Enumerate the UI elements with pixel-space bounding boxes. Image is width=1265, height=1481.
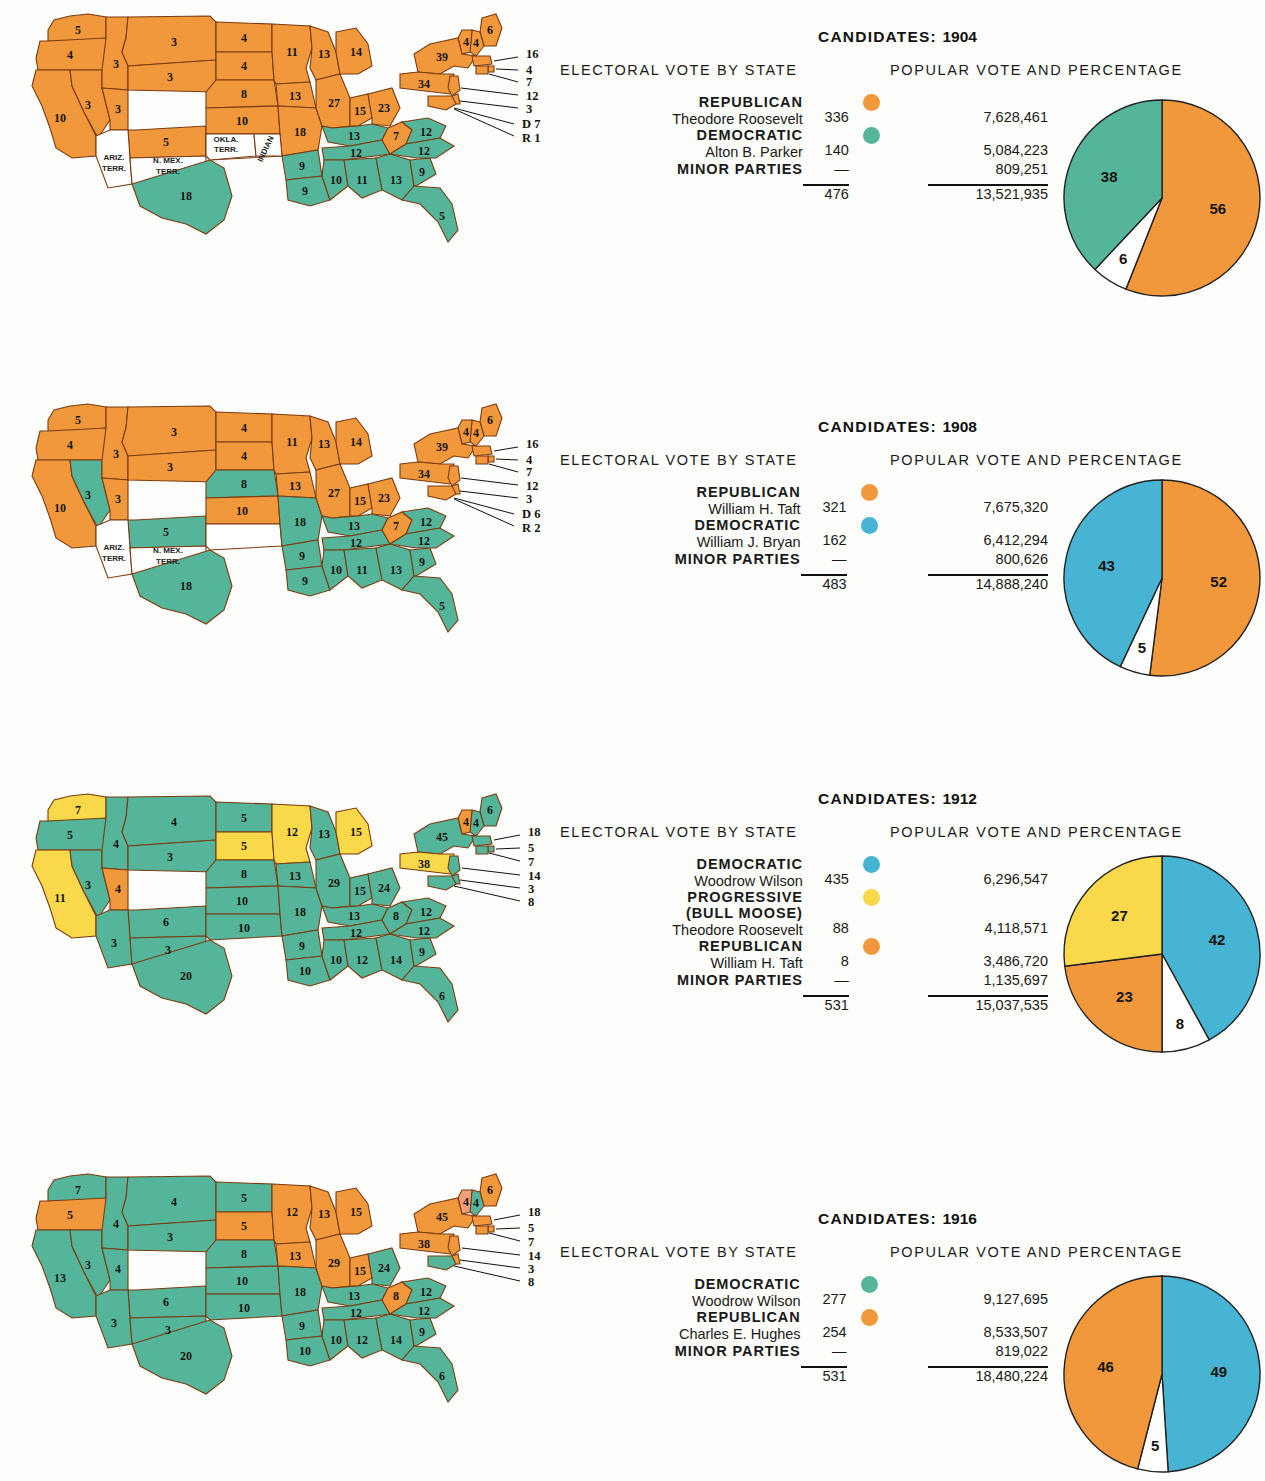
pie-value-democratic: 49 bbox=[1210, 1363, 1227, 1380]
state-votes-nd: 5 bbox=[241, 1191, 247, 1205]
pie-slice-republican bbox=[1150, 480, 1260, 676]
state-votes-wi: 13 bbox=[318, 437, 330, 451]
candidate-popular-votes: 9,127,695 bbox=[928, 1276, 1048, 1309]
state-votes-or: 4 bbox=[67, 438, 73, 452]
state-votes-mo: 18 bbox=[294, 125, 306, 139]
popular-vote-pie-1912: 4282327 bbox=[1052, 844, 1265, 1064]
leader-line-2 bbox=[489, 74, 518, 82]
state-votes-nc: 12 bbox=[418, 144, 430, 158]
pie-container: 56638 bbox=[1052, 88, 1265, 312]
party-label: DEMOCRATIC bbox=[578, 127, 803, 143]
vote-row-party: REPUBLICANWilliam H. Taft83,486,720 bbox=[578, 938, 1048, 971]
state-votes-me: 6 bbox=[487, 413, 493, 427]
total-popular: 15,037,535 bbox=[928, 997, 1048, 1013]
party-color-swatch bbox=[861, 484, 878, 501]
leader-line-1 bbox=[496, 1228, 520, 1229]
leader-line-1 bbox=[496, 459, 518, 460]
state-votes-ga: 13 bbox=[390, 173, 402, 187]
leader-line-5 bbox=[454, 1266, 520, 1281]
map-wrapper-1904: 5410333335448101811131899132714152313121… bbox=[10, 8, 555, 363]
candidate-popular-votes: 3,486,720 bbox=[928, 938, 1048, 971]
state-votes-co: 6 bbox=[163, 1295, 169, 1309]
results-panel-1912: CANDIDATES: 1912ELECTORAL VOTE BY STATEP… bbox=[560, 780, 1235, 1150]
totals-row: 53118,480,224 bbox=[578, 1368, 1048, 1384]
state-votes-ut: 4 bbox=[115, 882, 121, 896]
state-votes-id: 3 bbox=[113, 57, 119, 71]
pie-value-republican: 52 bbox=[1210, 573, 1227, 590]
state-votes-mt: 3 bbox=[171, 425, 177, 439]
state-votes-nc: 12 bbox=[418, 534, 430, 548]
state-fl bbox=[402, 186, 458, 242]
state-votes-wv: 7 bbox=[393, 129, 399, 143]
state-votes-mn: 11 bbox=[286, 45, 297, 59]
state-votes-ks: 10 bbox=[236, 1274, 248, 1288]
state-votes-wy: 3 bbox=[167, 70, 173, 84]
candidate-popular-votes: 6,412,294 bbox=[928, 517, 1048, 550]
leader-line-3 bbox=[461, 478, 518, 485]
state-votes-or: 4 bbox=[67, 48, 73, 62]
state-votes-ne: 8 bbox=[241, 1247, 247, 1261]
state-votes-va: 12 bbox=[420, 515, 432, 529]
state-votes-wi: 13 bbox=[318, 1207, 330, 1221]
state-votes-pa: 34 bbox=[418, 467, 430, 481]
state-ct bbox=[476, 1226, 488, 1234]
electoral-map-1908: 5410333335448101811131899132714152313121… bbox=[10, 398, 555, 648]
candidate-name: Woodrow Wilson bbox=[578, 872, 803, 889]
state-votes-ms: 10 bbox=[330, 173, 342, 187]
leader-line-6 bbox=[454, 499, 514, 526]
minor-parties-electoral: — bbox=[801, 550, 847, 568]
state-votes-nc: 12 bbox=[418, 924, 430, 938]
popular-column-heading: POPULAR VOTE AND PERCENTAGE bbox=[890, 452, 1235, 468]
state-votes-id: 3 bbox=[113, 447, 119, 461]
leader-line-4 bbox=[460, 880, 520, 888]
party-name-cell: DEMOCRATICWilliam J. Bryan bbox=[578, 517, 801, 550]
state-votes-nd: 4 bbox=[241, 31, 247, 45]
state-votes-sd: 5 bbox=[241, 839, 247, 853]
state-votes-ut: 4 bbox=[115, 1262, 121, 1276]
candidate-popular-votes: 6,296,547 bbox=[928, 856, 1048, 889]
candidate-popular-votes: 8,533,507 bbox=[928, 1309, 1048, 1342]
results-panel-1908: CANDIDATES: 1908ELECTORAL VOTE BY STATEP… bbox=[560, 390, 1235, 760]
leader-label-1: 5 bbox=[528, 841, 534, 855]
party-label: REPUBLICAN bbox=[578, 1309, 801, 1325]
state-votes-pa: 38 bbox=[418, 857, 430, 871]
candidates-title: CANDIDATES: 1908 bbox=[560, 418, 1235, 436]
leader-label-3: 14 bbox=[528, 869, 541, 883]
map-wrapper-1916: 7513344436335581010201213189101329151524… bbox=[10, 1168, 555, 1481]
state-votes-il: 27 bbox=[328, 96, 340, 110]
results-table: REPUBLICANTheodore Roosevelt3367,628,461… bbox=[578, 94, 1048, 202]
leader-label-0: 16 bbox=[526, 47, 539, 61]
total-popular: 14,888,240 bbox=[928, 576, 1048, 592]
candidates-title: CANDIDATES: 1912 bbox=[560, 790, 1235, 808]
state-votes-ariz: 3 bbox=[111, 936, 117, 950]
vote-row-minor: MINOR PARTIES—800,626 bbox=[578, 550, 1048, 568]
leader-line-0 bbox=[494, 835, 520, 840]
state-votes-ark: 9 bbox=[299, 159, 305, 173]
leader-line-3 bbox=[461, 88, 518, 95]
state-votes-wa: 5 bbox=[75, 23, 81, 37]
election-block-1904: 5410333335448101811131899132714152313121… bbox=[0, 0, 1239, 370]
state-votes-mi: 14 bbox=[350, 435, 362, 449]
state-votes-ne: 8 bbox=[241, 477, 247, 491]
state-votes-in: 15 bbox=[354, 494, 366, 508]
state-votes-nh: 4 bbox=[473, 426, 479, 440]
state-votes-la: 10 bbox=[299, 1344, 311, 1358]
leader-line-6 bbox=[454, 109, 514, 136]
party-label: PROGRESSIVE bbox=[578, 889, 803, 905]
leader-line-4 bbox=[460, 1260, 520, 1268]
state-votes-ut: 3 bbox=[115, 102, 121, 116]
state-votes-ark: 9 bbox=[299, 1319, 305, 1333]
leader-label-3: 12 bbox=[526, 89, 539, 103]
pie-container: 49546 bbox=[1052, 1264, 1265, 1481]
results-table: REPUBLICANWilliam H. Taft3217,675,320DEM… bbox=[578, 484, 1048, 592]
totals-rule bbox=[578, 1360, 1048, 1368]
state-votes-nm: 3 bbox=[165, 943, 171, 957]
vote-row-party: PROGRESSIVE(BULL MOOSE)Theodore Roosevel… bbox=[578, 889, 1048, 938]
leader-line-1 bbox=[496, 69, 518, 70]
candidate-electoral-votes: 88 bbox=[803, 889, 849, 938]
state-ma bbox=[472, 1216, 492, 1226]
state-votes-me: 6 bbox=[487, 803, 493, 817]
electoral-column-heading: ELECTORAL VOTE BY STATE bbox=[560, 62, 880, 78]
candidate-electoral-votes: 321 bbox=[801, 484, 847, 517]
state-votes-sc: 9 bbox=[419, 1325, 425, 1339]
